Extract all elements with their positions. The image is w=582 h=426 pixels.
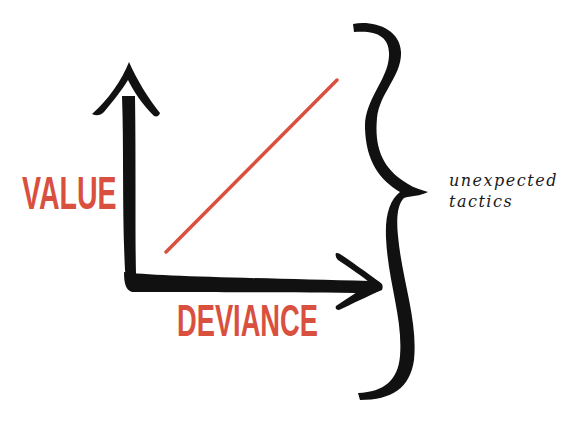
- x-axis-label: DEVIANCE: [177, 296, 318, 346]
- trend-line: [166, 80, 337, 252]
- curly-brace-icon: [353, 23, 428, 400]
- annotation-line-2: tactics: [449, 191, 558, 212]
- brace-annotation: unexpected tactics: [449, 170, 558, 212]
- annotation-line-1: unexpected: [449, 170, 558, 191]
- y-axis-label: VALUE: [22, 166, 117, 220]
